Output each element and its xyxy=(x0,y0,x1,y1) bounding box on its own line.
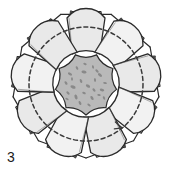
botanical-cross-section-figure xyxy=(0,0,172,176)
central-core xyxy=(55,55,116,115)
figure-root: 3 xyxy=(0,0,172,176)
figure-number-label: 3 xyxy=(7,150,15,164)
